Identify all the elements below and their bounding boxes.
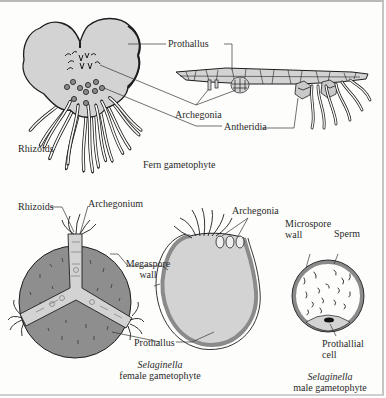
- caption-female-genus: Selaginella: [138, 359, 183, 370]
- caption-selaginella-male: Selaginella male gametophyte: [282, 371, 378, 393]
- label-archegonia-fern: Archegonia: [175, 109, 222, 120]
- microspore-wall-line1: Microspore: [285, 218, 331, 229]
- label-rhizoids-fern: Rhizoids: [18, 143, 54, 154]
- megaspore-wall-line2: wall: [139, 269, 156, 280]
- label-prothallial-cell: Prothallial cell: [322, 338, 364, 360]
- caption-selaginella-female: Selaginella female gametophyte: [100, 359, 220, 381]
- label-archegonium: Archegonium: [88, 198, 143, 209]
- caption-male-desc: male gametophyte: [293, 382, 367, 393]
- label-archegonia-selaginella: Archegonia: [232, 205, 279, 216]
- caption-female-desc: female gametophyte: [119, 370, 200, 381]
- caption-fern-gametophyte: Fern gametophyte: [143, 159, 215, 170]
- prothallial-cell-line1: Prothallial: [322, 338, 364, 349]
- label-prothallus-fern: Prothallus: [168, 38, 209, 49]
- caption-male-genus: Selaginella: [308, 371, 353, 382]
- label-sperm: Sperm: [334, 228, 360, 239]
- gametophyte-figure: Prothallus Archegonia Antheridia Rhizoid…: [0, 0, 384, 396]
- microspore-wall-line2: wall: [285, 229, 302, 240]
- label-rhizoids-selaginella: Rhizoids: [18, 201, 54, 212]
- label-megaspore-wall: Megaspore wall: [120, 258, 176, 280]
- label-prothallus-selaginella: Prothallus: [134, 337, 175, 348]
- megaspore-section: [8, 214, 144, 358]
- label-microspore-wall: Microspore wall: [285, 218, 331, 240]
- prothallial-cell-line2: cell: [322, 349, 336, 360]
- microspore-section: [292, 260, 364, 332]
- megaspore-wall-line1: Megaspore: [126, 258, 170, 269]
- label-antheridia-fern: Antheridia: [224, 121, 267, 132]
